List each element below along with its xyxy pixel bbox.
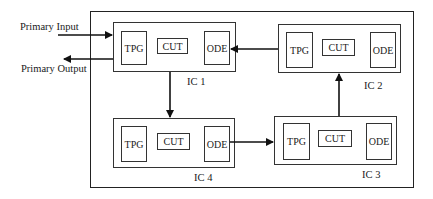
connection-arrows (0, 0, 433, 199)
